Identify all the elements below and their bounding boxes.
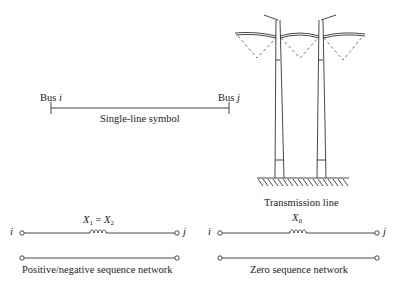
bus-j-text: Bus: [218, 92, 234, 103]
x2-sub: 2: [111, 219, 115, 227]
pn-node-i: i: [10, 227, 13, 238]
bus-i-var: i: [59, 92, 62, 103]
diagram-canvas: [0, 0, 403, 290]
pn-reactance-label: X1 = X2: [83, 215, 114, 227]
single-line-caption: Single-line symbol: [100, 114, 180, 125]
zero-node-i: i: [208, 227, 211, 238]
bus-i-label: Bus i: [40, 93, 62, 104]
insulator-dashed-lines: [238, 36, 363, 60]
bus-j-var: j: [237, 92, 240, 103]
pn-node-j: j: [183, 227, 186, 238]
bus-i-text: Bus: [40, 92, 56, 103]
transmission-tower-icon: [235, 15, 365, 178]
pn-caption: Positive/negative sequence network: [22, 265, 172, 276]
zero-reactance-label: X0: [292, 213, 302, 225]
transmission-line-caption: Transmission line: [264, 198, 339, 209]
ground-hatching: [257, 178, 349, 186]
zero-node-j: j: [383, 227, 386, 238]
x0-sub: 0: [298, 217, 302, 225]
bus-j-label: Bus j: [218, 93, 240, 104]
positive-negative-network: [20, 230, 179, 260]
equals-sign: =: [93, 214, 104, 225]
zero-sequence-network: [218, 230, 379, 260]
zero-caption: Zero sequence network: [250, 265, 348, 276]
